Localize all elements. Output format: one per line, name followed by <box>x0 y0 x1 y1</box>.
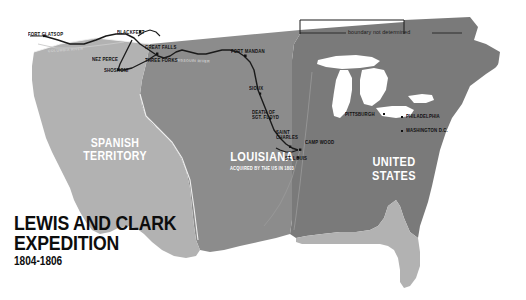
boundary-not-determined-label: boundary not determined <box>348 30 410 35</box>
place-label-nez-perce: NEZ PERCE <box>92 57 118 62</box>
place-label-three-forks: THREE FORKS <box>145 58 178 63</box>
place-label-sioux: SIOUX <box>249 86 263 91</box>
place-label-camp-wood: CAMP WOOD <box>305 140 334 145</box>
territory-label-spanish: SPANISH TERRITORY <box>67 137 164 164</box>
place-label-philadelphia: PHILADELPHIA <box>406 114 440 119</box>
place-label-saint-charles: SAINT CHARLES <box>276 130 298 141</box>
place-label-washington-dc: WASHINGTON D.C. <box>406 128 448 133</box>
city-marker-washington-dc <box>401 130 403 132</box>
lewis-and-clark-map: SPANISH TERRITORY LOUISIANA ACQUIRED BY … <box>0 0 526 300</box>
place-label-great-falls: GREAT FALLS <box>145 45 176 50</box>
title-line-1: LEWIS AND CLARK <box>14 213 176 233</box>
place-label-pittsburgh: PITTSBURGH <box>345 112 375 117</box>
title-block: LEWIS AND CLARK EXPEDITION 1804-1806 <box>14 213 207 267</box>
place-label-shoshoni: SHOSHONI <box>104 68 128 73</box>
place-label-fort-mandan: FORT MANDAN <box>231 49 265 54</box>
place-label-blackfeet: BLACKFEET <box>117 30 145 35</box>
place-label-death-of-sgt-floyd: DEATH OF SGT. FLOYD <box>252 110 279 121</box>
place-label-st-louis: ST. LOUIS <box>285 156 307 161</box>
territory-label-united-states: UNITED STATES <box>357 155 431 183</box>
place-label-fort-clatsop: FORT CLATSOP <box>28 32 63 37</box>
water-gulf-of-mexico <box>180 244 398 300</box>
city-marker-philadelphia <box>401 116 403 118</box>
city-marker-pittsburgh <box>383 113 385 115</box>
title-dates: 1804-1806 <box>14 255 176 267</box>
title-line-2: EXPEDITION <box>14 233 176 253</box>
